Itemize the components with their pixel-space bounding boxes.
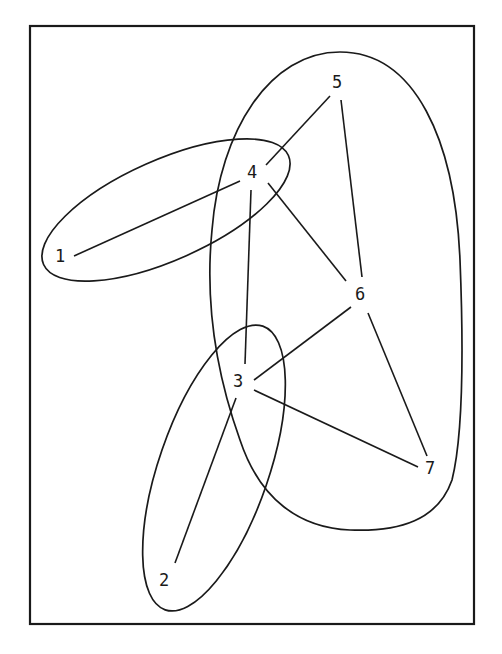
nodes: 1 2 3 4 5 6 7 [55,72,435,590]
edge-3-7 [254,390,418,467]
node-5: 5 [332,72,342,92]
node-4: 4 [247,162,257,182]
edge-4-5 [266,96,330,165]
edge-5-6 [341,100,362,277]
node-3: 3 [233,371,243,391]
node-7: 7 [425,458,435,478]
edge-4-6 [268,183,346,281]
edge-3-2 [175,398,236,563]
edge-1-4 [74,181,240,256]
hypergraph-diagram: 1 2 3 4 5 6 7 [0,0,502,654]
node-1: 1 [55,246,65,266]
edge-6-3 [254,307,351,380]
node-6: 6 [355,284,365,304]
node-2: 2 [159,570,169,590]
edge-6-7 [368,313,427,456]
hyperedge-1-4 [23,110,309,310]
edge-4-3 [245,190,251,364]
